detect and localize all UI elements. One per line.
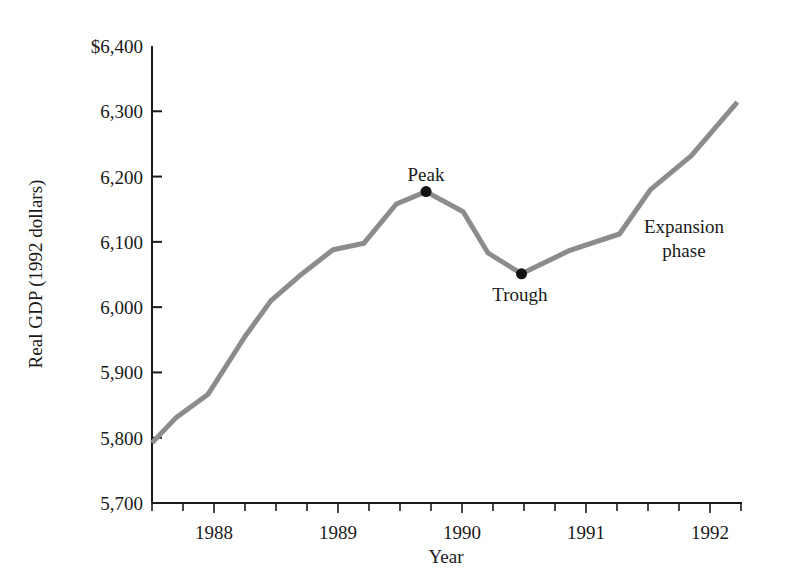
y-tick-label: 5,800 <box>100 428 143 449</box>
x-axis-title: Year <box>428 546 464 567</box>
series-real-gdp <box>152 102 737 443</box>
peak-label: Peak <box>408 164 445 185</box>
y-axis-title: Real GDP (1992 dollars) <box>25 180 47 369</box>
expansion-label-line1: Expansion <box>644 216 725 237</box>
y-tick-label: $6,400 <box>91 36 143 57</box>
x-axis: 19881989199019911992 <box>152 503 742 543</box>
y-tick-label: 6,000 <box>100 297 143 318</box>
y-tick-label: 6,200 <box>100 167 143 188</box>
y-tick-label: 6,300 <box>100 101 143 122</box>
x-tick-label: 1990 <box>443 522 481 543</box>
trough-label: Trough <box>492 284 548 305</box>
y-tick-label: 6,100 <box>100 232 143 253</box>
x-tick-label: 1988 <box>195 522 233 543</box>
y-tick-label: 5,700 <box>100 493 143 514</box>
gdp-line-chart: 5,7005,8005,9006,0006,1006,2006,300$6,40… <box>0 0 785 587</box>
trough-marker <box>516 268 527 279</box>
y-axis: 5,7005,8005,9006,0006,1006,2006,300$6,40… <box>91 36 162 514</box>
x-tick-label: 1992 <box>691 522 729 543</box>
gdp-line <box>152 102 737 443</box>
x-tick-label: 1991 <box>567 522 605 543</box>
x-tick-label: 1989 <box>319 522 357 543</box>
expansion-label-line2: phase <box>662 240 705 261</box>
y-tick-label: 5,900 <box>100 362 143 383</box>
peak-marker <box>421 186 432 197</box>
